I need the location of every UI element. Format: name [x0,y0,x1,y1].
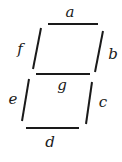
label-c: c [99,93,108,111]
label-f: f [16,40,25,58]
segment-e [22,79,29,121]
segment-f [33,28,41,69]
seven-segment-diagram: a b c d e f g [0,0,122,162]
segment-b [95,31,103,72]
segment-c [86,82,92,124]
label-e: e [9,90,18,108]
label-a: a [66,3,75,21]
label-b: b [108,45,118,63]
label-d: d [45,133,55,151]
label-g: g [57,76,67,94]
